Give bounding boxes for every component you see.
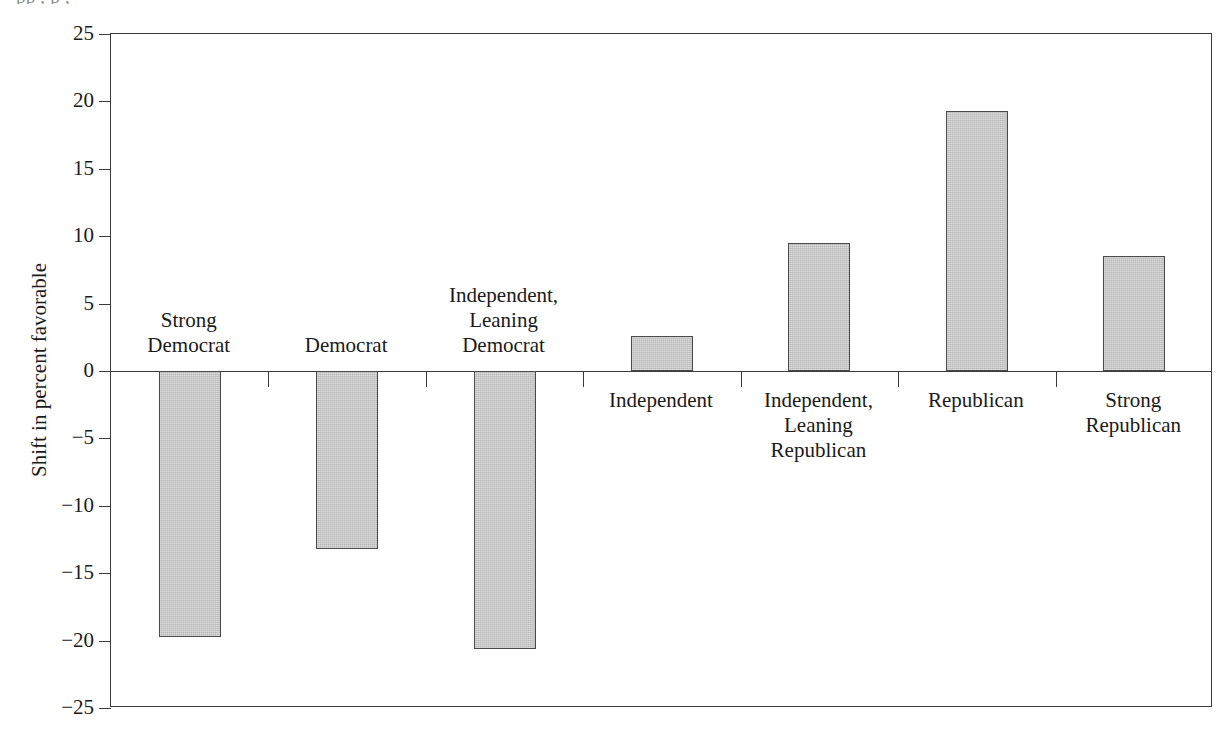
- y-axis-tick: [99, 304, 111, 305]
- bar: [316, 371, 378, 549]
- bar: [159, 371, 221, 637]
- y-axis-tick-label: −10: [24, 495, 94, 516]
- plot-inner: [111, 34, 1211, 706]
- y-axis-tick-label: 20: [24, 90, 94, 111]
- y-axis-tick: [99, 371, 111, 372]
- x-axis-tick: [1056, 371, 1057, 387]
- x-axis-category-label: Independent: [570, 388, 751, 413]
- x-axis-tick: [583, 371, 584, 387]
- y-axis-tick: [99, 236, 111, 237]
- y-axis-tick-label: 5: [24, 293, 94, 314]
- y-axis-tick: [99, 573, 111, 574]
- bar: [1103, 256, 1165, 371]
- y-axis-tick: [99, 506, 111, 507]
- x-axis-category-label: Strong Republican: [1043, 388, 1224, 438]
- x-axis-tick: [898, 371, 899, 387]
- x-axis-category-label: Democrat: [255, 333, 436, 358]
- x-axis-tick: [741, 371, 742, 387]
- y-axis-tick-label: −15: [24, 562, 94, 583]
- plot-area: [110, 33, 1212, 707]
- y-axis-tick: [99, 34, 111, 35]
- bar: [946, 111, 1008, 371]
- x-axis-tick: [426, 371, 427, 387]
- bar: [788, 243, 850, 371]
- y-axis-tick-label: −20: [24, 630, 94, 651]
- x-axis-category-label: Republican: [885, 388, 1066, 413]
- y-axis-tick: [99, 101, 111, 102]
- y-axis-tick: [99, 169, 111, 170]
- y-axis-tick-label: 15: [24, 158, 94, 179]
- zero-baseline: [111, 371, 1211, 372]
- x-axis-category-label: Independent, Leaning Republican: [728, 388, 909, 463]
- y-axis-tick-label: 10: [24, 225, 94, 246]
- y-axis-tick-label: −25: [24, 697, 94, 718]
- y-axis-tick: [99, 708, 111, 709]
- bar: [631, 336, 693, 371]
- bar: [474, 371, 536, 649]
- figure-root: pp , p , Shift in percent favorable 2520…: [0, 0, 1224, 731]
- x-axis-tick: [268, 371, 269, 387]
- cropped-caption-text: pp , p ,: [0, 0, 1224, 4]
- y-axis-tick-label: 0: [24, 360, 94, 381]
- y-axis-tick: [99, 438, 111, 439]
- x-axis-category-label: Strong Democrat: [98, 308, 279, 358]
- y-axis-tick-label: −5: [24, 427, 94, 448]
- y-axis-tick-label: 25: [24, 23, 94, 44]
- x-axis-category-label: Independent, Leaning Democrat: [413, 283, 594, 358]
- y-axis-tick: [99, 641, 111, 642]
